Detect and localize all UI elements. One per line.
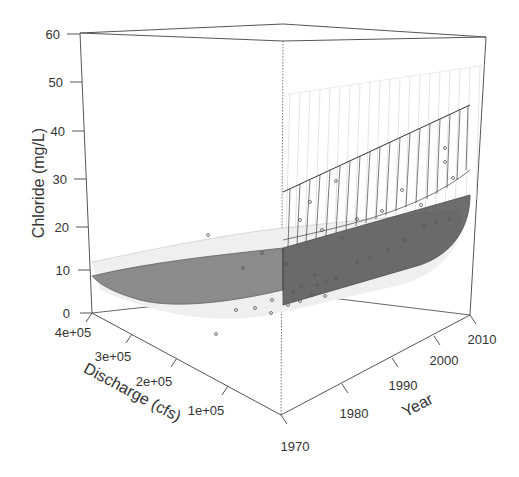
year-axis-title: Year (399, 390, 436, 421)
discharge-axis (86, 313, 281, 415)
z-tick-label: 40 (51, 124, 65, 139)
discharge-tick-label: 1e+05 (188, 403, 225, 418)
year-tick-label: 1970 (281, 439, 310, 454)
year-axis-tick-labels: 1970 1980 1990 2000 2010 (281, 332, 497, 454)
z-tick-label: 20 (55, 220, 69, 235)
z-tick-label: 10 (56, 263, 70, 278)
chart-3d-surface: 60 50 40 30 20 10 0 Chloride (mg/L) 4e+0… (0, 0, 519, 477)
year-tick-label: 2010 (468, 332, 497, 347)
discharge-tick-label: 4e+05 (55, 325, 92, 340)
z-tick-label: 60 (46, 27, 60, 42)
year-tick-label: 1990 (389, 378, 418, 393)
year-axis (281, 315, 476, 424)
z-tick-label: 30 (53, 172, 67, 187)
discharge-tick-label: 3e+05 (95, 349, 132, 364)
year-tick-label: 2000 (430, 353, 459, 368)
z-axis (67, 33, 92, 313)
year-tick-label: 1980 (340, 406, 369, 421)
z-tick-label: 0 (63, 306, 70, 321)
discharge-axis-title: Discharge (cfs) (81, 359, 184, 425)
z-axis-tick-labels: 60 50 40 30 20 10 0 (46, 27, 70, 321)
z-tick-label: 50 (49, 75, 63, 90)
z-axis-title: Chloride (mg/L) (30, 128, 47, 238)
